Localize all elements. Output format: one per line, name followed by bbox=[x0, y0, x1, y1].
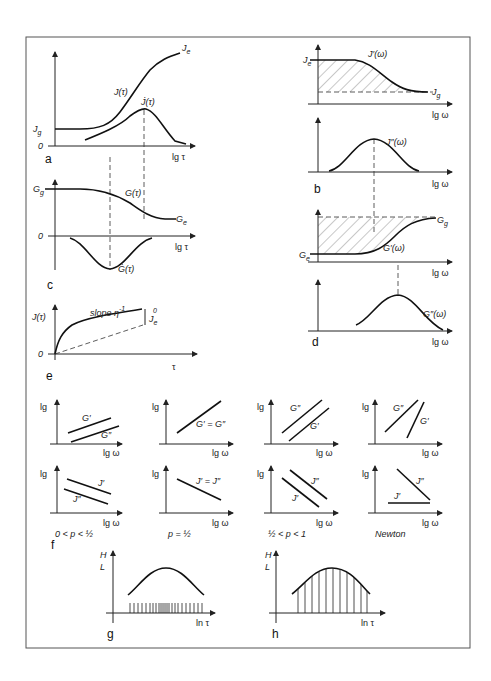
label-Jg: Jg bbox=[431, 87, 441, 100]
svg-text:lg ω: lg ω bbox=[103, 518, 120, 528]
label-G-prime: G′(ω) bbox=[383, 243, 405, 253]
panel-h: H L ln τ h bbox=[265, 550, 385, 641]
svg-text:J′: J′ bbox=[291, 493, 299, 503]
label-Ge: Ge bbox=[299, 250, 310, 262]
svg-text:lg ω: lg ω bbox=[316, 448, 333, 458]
f-bottom-3: lg lg ω J″ J′ ½ < p < 1 bbox=[257, 466, 338, 539]
f-top-2: lg lg ω G′ = G″ bbox=[152, 400, 233, 458]
svg-text:lg: lg bbox=[152, 469, 159, 479]
svg-text:lg ω: lg ω bbox=[422, 448, 439, 458]
svg-text:G′: G′ bbox=[82, 413, 91, 423]
f-bottom-4: lg lg ω J″ J′ Newton bbox=[362, 466, 442, 539]
x-axis-label: lg τ bbox=[175, 242, 189, 252]
panel-g: H L ln τ g bbox=[100, 550, 215, 641]
label-Je0-sup: 0 bbox=[153, 307, 157, 314]
svg-text:G′ = G″: G′ = G″ bbox=[196, 419, 226, 429]
x-axis-label: lg ω bbox=[432, 268, 449, 278]
f-top-1: lg lg ω G′ G″ bbox=[40, 400, 122, 458]
svg-text:lg ω: lg ω bbox=[212, 518, 229, 528]
svg-text:lg: lg bbox=[40, 469, 47, 479]
label-Ge: Ge bbox=[176, 214, 187, 226]
svg-text:J′ = J″: J′ = J″ bbox=[195, 476, 221, 486]
label-G-dot-tau: Ġ(τ) bbox=[118, 264, 134, 274]
label-G-tau: G(τ) bbox=[125, 188, 141, 198]
label-G-double-prime: G″(ω) bbox=[423, 309, 446, 319]
f-top-3: lg lg ω G″ G′ bbox=[257, 400, 338, 458]
label-J-tau: J(τ) bbox=[113, 87, 128, 97]
panel-d: Ge Gg G′(ω) lg ω G″(ω) lg ω d bbox=[299, 210, 452, 349]
x-axis-label: lg ω bbox=[432, 179, 449, 189]
f-bottom-2: lg lg ω J′ = J″ p = ½ bbox=[152, 466, 233, 539]
panel-letter-f: f bbox=[51, 538, 55, 552]
svg-text:lg: lg bbox=[40, 402, 47, 412]
dashed-asymptote bbox=[55, 325, 143, 354]
svg-text:J″: J″ bbox=[415, 476, 425, 486]
x-axis-label: lg ω bbox=[432, 110, 449, 120]
panel-letter-h: h bbox=[272, 627, 279, 641]
label-J-double-prime: J″(ω) bbox=[385, 137, 407, 147]
label-Je: Je bbox=[181, 43, 191, 55]
y-axis-label: J(τ) bbox=[31, 312, 46, 322]
svg-text:lg: lg bbox=[152, 402, 159, 412]
svg-text:lg ω: lg ω bbox=[316, 518, 333, 528]
svg-text:lg ω: lg ω bbox=[103, 448, 120, 458]
label-zero: 0 bbox=[38, 231, 43, 241]
panel-f: lg lg ω G′ G″ lg lg ω J′ J″ 0 < p < ½ lg… bbox=[40, 400, 442, 552]
curve-G-dot-tau bbox=[70, 238, 152, 269]
label-Gg: Gg bbox=[33, 184, 44, 197]
x-axis-label: lg τ bbox=[172, 152, 186, 162]
svg-text:lg: lg bbox=[257, 402, 264, 412]
y-label-L: L bbox=[100, 562, 105, 572]
panel-letter-b: b bbox=[314, 182, 321, 196]
curve-H-L bbox=[128, 568, 204, 595]
svg-text:½ < p < 1: ½ < p < 1 bbox=[268, 529, 306, 539]
svg-text:G″: G″ bbox=[393, 403, 404, 413]
hatched-area bbox=[318, 60, 425, 92]
svg-text:lg: lg bbox=[362, 469, 369, 479]
svg-text:G″: G″ bbox=[101, 430, 112, 440]
svg-text:lg ω: lg ω bbox=[422, 518, 439, 528]
svg-text:lg: lg bbox=[362, 402, 369, 412]
panel-e: J(τ) 0 slope η-1 Je 0 τ e bbox=[31, 305, 197, 383]
svg-text:J′: J′ bbox=[393, 491, 401, 501]
svg-text:p = ½: p = ½ bbox=[167, 529, 191, 539]
svg-text:J″: J″ bbox=[72, 494, 82, 504]
x-axis-label: ln τ bbox=[361, 618, 375, 628]
panel-b: Je Jg J′(ω) lg ω J″(ω) lg ω b bbox=[302, 45, 452, 232]
panel-c: Gg Ge 0 G(τ) Ġ(τ) lg τ c bbox=[33, 180, 195, 292]
svg-text:J′: J′ bbox=[97, 478, 105, 488]
panel-letter-d: d bbox=[312, 335, 319, 349]
label-Jg: Jg bbox=[32, 124, 42, 137]
y-label-H: H bbox=[100, 550, 107, 560]
label-Gg: Gg bbox=[437, 215, 448, 228]
svg-text:Newton: Newton bbox=[375, 529, 406, 539]
figure-canvas: Jg Je 0 J(τ) J̇(τ) lg τ a Gg Ge 0 G(τ) Ġ… bbox=[0, 0, 491, 681]
label-slope: slope η-1 bbox=[90, 305, 125, 318]
continuous-spectrum-lines bbox=[298, 568, 367, 613]
f-bottom-1: lg lg ω J′ J″ 0 < p < ½ bbox=[40, 466, 122, 539]
label-zero: 0 bbox=[38, 349, 43, 359]
f-top-4: lg lg ω G″ G′ bbox=[362, 400, 442, 458]
svg-text:G′: G′ bbox=[420, 416, 429, 426]
label-zero: 0 bbox=[38, 141, 43, 151]
panel-letter-c: c bbox=[47, 278, 53, 292]
svg-text:0 < p < ½: 0 < p < ½ bbox=[55, 529, 94, 539]
svg-text:G″: G″ bbox=[290, 403, 301, 413]
label-J-prime: J′(ω) bbox=[367, 49, 387, 59]
svg-text:lg: lg bbox=[257, 469, 264, 479]
y-label-H: H bbox=[265, 550, 272, 560]
panel-letter-e: e bbox=[46, 369, 53, 383]
svg-text:lg ω: lg ω bbox=[212, 448, 229, 458]
y-label-L: L bbox=[265, 562, 270, 572]
label-J-dot-tau: J̇(τ) bbox=[140, 97, 155, 107]
svg-text:G′: G′ bbox=[310, 421, 319, 431]
panel-letter-a: a bbox=[45, 152, 52, 166]
label-Je: Je bbox=[302, 55, 312, 67]
svg-text:J″: J″ bbox=[310, 476, 320, 486]
panel-letter-g: g bbox=[107, 627, 114, 641]
x-axis-label: ln τ bbox=[196, 618, 210, 628]
x-axis-label: lg ω bbox=[432, 337, 449, 347]
discrete-spectrum-lines bbox=[130, 603, 202, 613]
curve-G-tau bbox=[45, 189, 176, 219]
label-Je0: Je bbox=[148, 314, 158, 326]
